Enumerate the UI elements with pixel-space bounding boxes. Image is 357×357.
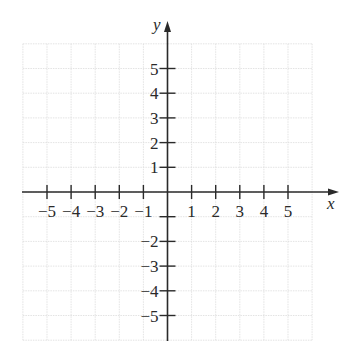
axes: [22, 21, 339, 341]
x-tick-label: 1: [187, 202, 196, 221]
y-tick-label: −2: [140, 232, 158, 251]
x-tick-label: −3: [86, 202, 104, 221]
y-tick-label: 1: [150, 158, 159, 177]
y-tick-label: −4: [140, 282, 159, 301]
x-axis-label: x: [326, 194, 335, 213]
y-axis-arrow-icon: [164, 21, 171, 32]
y-tick-label: −3: [140, 257, 158, 276]
coordinate-plane: −5−4−3−2−11234554321−2−3−4−5 x y: [0, 0, 357, 357]
y-tick-label: 4: [150, 84, 159, 103]
x-tick-label: −1: [134, 202, 152, 221]
x-tick-label: −4: [62, 202, 81, 221]
x-tick-label: 4: [260, 202, 269, 221]
x-tick-label: 2: [211, 202, 220, 221]
y-tick-label: 2: [150, 134, 159, 153]
x-tick-label: 3: [236, 202, 245, 221]
x-tick-label: −5: [38, 202, 56, 221]
x-tick-label: 5: [284, 202, 293, 221]
y-tick-label: 3: [150, 109, 159, 128]
y-axis-label: y: [151, 15, 161, 34]
y-tick-label: −5: [140, 307, 158, 326]
x-tick-label: −2: [110, 202, 128, 221]
y-tick-label: 5: [150, 60, 159, 79]
